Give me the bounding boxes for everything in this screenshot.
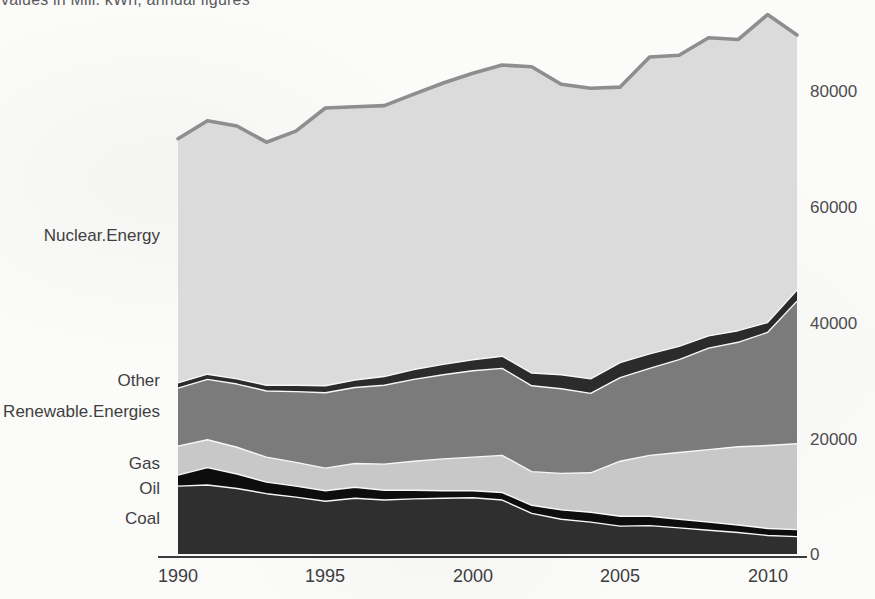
y-axis-tick-0: 0: [810, 545, 872, 565]
series-label-gas: Gas: [2, 454, 160, 474]
x-axis-tick-1995: 1995: [283, 566, 367, 587]
x-axis-tick-2000: 2000: [431, 566, 515, 587]
y-axis-tick-60000: 60000: [810, 198, 872, 218]
x-axis-tick-2005: 2005: [578, 566, 662, 587]
series-label-other: Other: [2, 371, 160, 391]
series-label-nuclear-energy: Nuclear.Energy: [2, 226, 160, 246]
x-axis-tick-1990: 1990: [136, 566, 220, 587]
series-label-coal: Coal: [2, 509, 160, 529]
x-axis-tick-2010: 2010: [726, 566, 810, 587]
series-label-renewable-energies: Renewable.Energies: [2, 402, 160, 422]
y-axis-tick-40000: 40000: [810, 314, 872, 334]
y-axis-tick-80000: 80000: [810, 82, 872, 102]
series-label-oil: Oil: [2, 479, 160, 499]
y-axis-tick-20000: 20000: [810, 430, 872, 450]
